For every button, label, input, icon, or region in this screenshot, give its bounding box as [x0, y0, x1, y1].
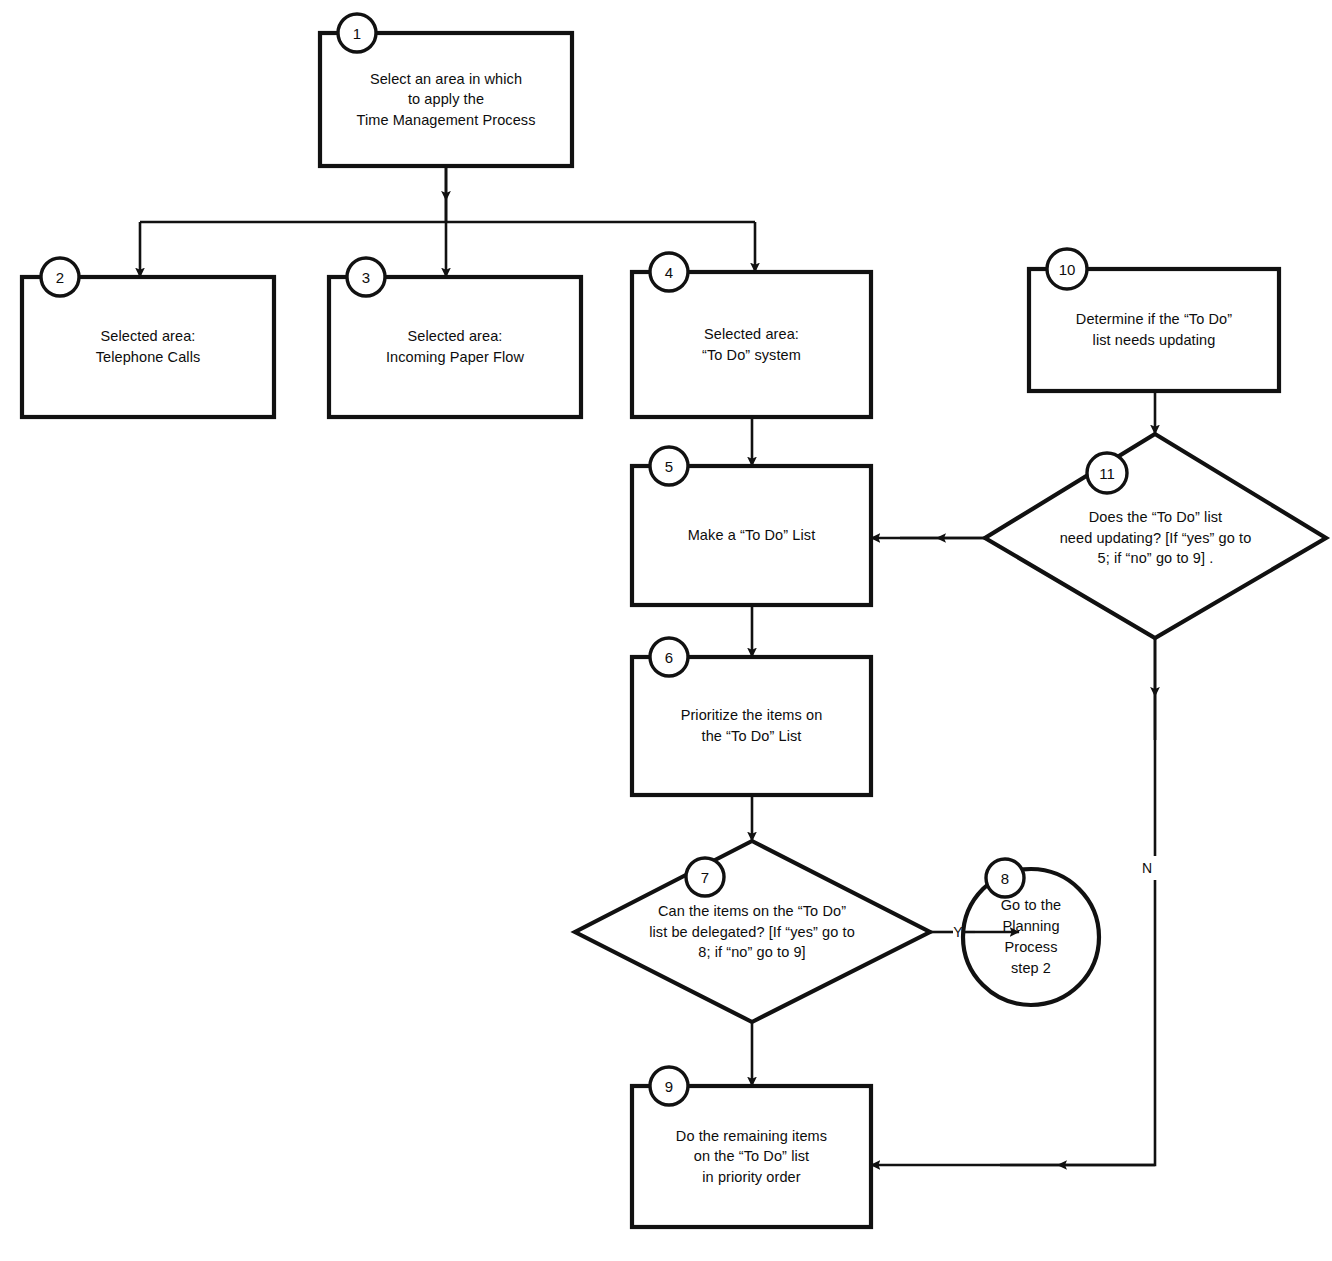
node-5-shape: [632, 466, 871, 605]
edge-11-to-9: [871, 638, 1155, 1165]
node-4-shape: [632, 272, 871, 417]
node-6-badge-circle: [650, 638, 688, 676]
node-4-badge-circle: [650, 253, 688, 291]
node-6-shape: [632, 657, 871, 795]
flowchart-graphics: [0, 0, 1332, 1261]
node-2-shape: [22, 277, 274, 417]
node-7-badge-circle: [686, 858, 724, 896]
node-5-badge-circle: [650, 447, 688, 485]
node-8-badge-circle: [986, 859, 1024, 897]
node-9-badge-circle: [650, 1067, 688, 1105]
node-8-shape: [963, 869, 1099, 1005]
node-3-shape: [329, 277, 581, 417]
node-10-badge-circle: [1047, 249, 1087, 289]
node-11-shape: [985, 434, 1326, 638]
node-1-badge-circle: [338, 14, 376, 52]
flowchart-canvas: Select an area in which to apply the Tim…: [0, 0, 1332, 1261]
node-2-badge-circle: [41, 258, 79, 296]
node-3-badge-circle: [347, 258, 385, 296]
node-7-shape: [575, 841, 930, 1022]
node-9-shape: [632, 1086, 871, 1227]
node-11-badge-circle: [1087, 453, 1127, 493]
